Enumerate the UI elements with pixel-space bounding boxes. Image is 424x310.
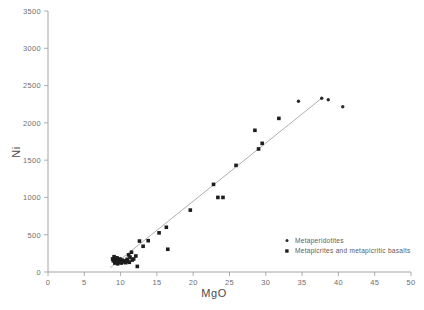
data-point-square — [141, 244, 145, 248]
x-axis-ticks: 05101520253035404550 — [46, 272, 416, 287]
legend-label-metapicrites: Metapicrites and metapicritic basalts — [295, 247, 411, 255]
legend-square-icon — [285, 249, 288, 252]
x-tick-label: 50 — [407, 278, 416, 287]
y-tick-label: 1000 — [23, 193, 41, 202]
y-tick-label: 2000 — [23, 119, 41, 128]
data-point-dot — [341, 105, 344, 108]
y-tick-label: 500 — [28, 231, 41, 240]
data-point-square — [130, 250, 134, 254]
data-point-dot — [327, 98, 330, 101]
data-point-square — [165, 225, 169, 229]
data-point-square — [257, 147, 261, 151]
x-tick-label: 0 — [46, 278, 50, 287]
legend-dot-icon — [286, 239, 289, 242]
x-tick-label: 40 — [334, 278, 343, 287]
x-tick-label: 5 — [82, 278, 86, 287]
legend: Metaperidotites Metapicrites and metapic… — [285, 237, 411, 255]
y-axis-title: Ni — [10, 146, 22, 158]
series-metapicrites-points — [111, 117, 281, 269]
x-tick-label: 10 — [116, 278, 125, 287]
scatter-plot-figure: 0500100015002000250030003500 05101520253… — [0, 0, 424, 310]
y-tick-label: 1500 — [23, 156, 41, 165]
series-metaperidotites-points — [297, 97, 345, 109]
data-point-square — [253, 129, 257, 133]
data-point-square — [157, 231, 161, 235]
data-point-square — [135, 265, 139, 269]
x-tick-label: 35 — [298, 278, 307, 287]
x-tick-label: 25 — [225, 278, 234, 287]
data-point-square — [234, 164, 238, 168]
y-tick-label: 2500 — [23, 81, 41, 90]
x-tick-label: 30 — [261, 278, 270, 287]
legend-label-metaperidotites: Metaperidotites — [295, 237, 344, 245]
data-point-square — [212, 183, 216, 187]
y-tick-label: 3000 — [23, 44, 41, 53]
data-point-square — [134, 254, 138, 258]
y-axis-ticks: 0500100015002000250030003500 — [23, 7, 48, 277]
data-point-square — [138, 239, 142, 243]
x-tick-label: 45 — [370, 278, 379, 287]
y-tick-label: 0 — [37, 268, 41, 277]
legend-item-metapicrites: Metapicrites and metapicritic basalts — [285, 247, 411, 255]
axes — [48, 11, 411, 272]
trend-line-segment — [110, 98, 321, 267]
legend-item-metaperidotites: Metaperidotites — [286, 237, 345, 245]
x-tick-label: 15 — [152, 278, 161, 287]
plot-canvas: 0500100015002000250030003500 05101520253… — [0, 0, 424, 310]
data-point-square — [277, 117, 281, 121]
y-tick-label: 3500 — [23, 7, 41, 16]
data-point-square — [216, 196, 220, 200]
trend-line — [110, 98, 321, 267]
data-point-square — [260, 142, 264, 146]
data-point-dot — [297, 100, 300, 103]
data-point-square — [188, 208, 192, 212]
data-point-square — [146, 239, 150, 243]
data-point-square — [221, 196, 225, 200]
data-point-dot — [320, 97, 323, 100]
x-tick-label: 20 — [189, 278, 198, 287]
x-axis-title: MgO — [201, 287, 227, 299]
data-point-square — [166, 247, 170, 251]
